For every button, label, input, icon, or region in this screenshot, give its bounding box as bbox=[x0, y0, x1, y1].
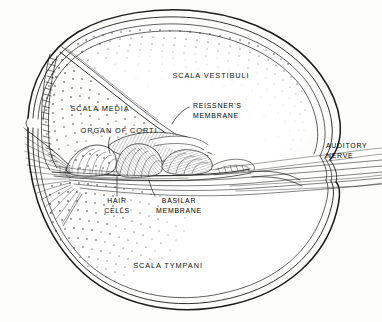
label-reissners-membrane-line1: REISSNER'S bbox=[193, 102, 242, 109]
label-scala-tympani: SCALA TYMPANI bbox=[133, 261, 203, 270]
label-organ-of-corti: ORGAN OF CORTI bbox=[81, 126, 158, 135]
label-basilar-membrane-line2: MEMBRANE bbox=[156, 207, 202, 214]
label-auditory-nerve-line2: NERVE bbox=[326, 152, 353, 159]
label-basilar-membrane-line1: BASILAR bbox=[162, 197, 196, 204]
cochlea-diagram: SCALA VESTIBULI SCALA MEDIA ORGAN OF COR… bbox=[0, 0, 382, 322]
label-auditory-nerve-line1: AUDITORY bbox=[326, 142, 367, 149]
label-hair-cells-line1: HAIR bbox=[107, 197, 126, 204]
label-scala-media: SCALA MEDIA bbox=[70, 104, 129, 113]
label-reissners-membrane-line2: MEMBRANE bbox=[193, 112, 239, 119]
label-hair-cells-line2: CELLS bbox=[104, 207, 130, 214]
label-scala-vestibuli: SCALA VESTIBULI bbox=[172, 71, 249, 80]
cochlea-figure: SCALA VESTIBULI SCALA MEDIA ORGAN OF COR… bbox=[0, 0, 382, 322]
